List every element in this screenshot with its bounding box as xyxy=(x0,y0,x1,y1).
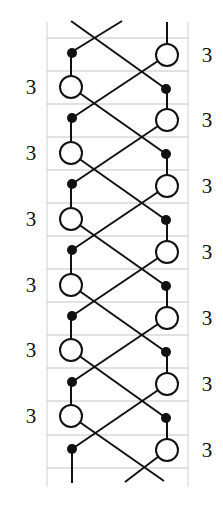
braid-diagram: 3333333333333 xyxy=(0,0,223,508)
right-multiplicity-label: 3 xyxy=(202,240,213,264)
open-circle-node xyxy=(156,44,178,66)
filled-dot-node xyxy=(67,179,77,189)
right-multiplicity-label: 3 xyxy=(202,174,213,198)
filled-dot-node xyxy=(67,113,77,123)
strand xyxy=(71,350,166,418)
right-multiplicity-label: 3 xyxy=(202,108,213,132)
strand xyxy=(72,384,167,449)
open-circle-node xyxy=(60,405,82,427)
strand xyxy=(71,219,166,286)
open-circle-node xyxy=(156,175,178,197)
filled-dot-node xyxy=(67,48,77,58)
open-circle-node xyxy=(60,76,82,98)
right-multiplicity-label: 3 xyxy=(202,43,213,67)
left-multiplicity-label: 3 xyxy=(26,75,37,99)
left-multiplicity-label: 3 xyxy=(26,141,37,165)
filled-dot-node xyxy=(67,245,77,255)
right-multiplicity-label: 3 xyxy=(202,438,213,462)
open-circle-node xyxy=(156,373,178,395)
open-circle-node xyxy=(60,274,82,296)
open-circle-node xyxy=(60,142,82,164)
open-circle-node xyxy=(156,307,178,329)
open-circle-node xyxy=(156,241,178,263)
open-circle-node xyxy=(156,109,178,131)
left-multiplicity-label: 3 xyxy=(26,404,37,428)
filled-dot-node xyxy=(67,311,77,321)
strand xyxy=(72,252,167,316)
filled-dot-node xyxy=(161,149,171,159)
filled-dot-node xyxy=(161,281,171,291)
left-multiplicity-label: 3 xyxy=(26,207,37,231)
open-circle-node xyxy=(156,439,178,461)
strand xyxy=(72,318,167,382)
left-multiplicity-label: 3 xyxy=(26,273,37,297)
strands xyxy=(70,21,167,483)
strand xyxy=(71,87,166,154)
open-circle-node xyxy=(60,208,82,230)
strand xyxy=(72,186,167,250)
strand xyxy=(71,21,166,89)
filled-dot-node xyxy=(161,84,171,94)
right-multiplicity-label: 3 xyxy=(202,372,213,396)
strand xyxy=(72,120,167,184)
right-multiplicity-label: 3 xyxy=(202,306,213,330)
strand xyxy=(72,55,167,118)
filled-dot-node xyxy=(161,215,171,225)
filled-dot-node xyxy=(67,377,77,387)
strand xyxy=(71,416,164,481)
filled-dot-node xyxy=(67,444,77,454)
strand xyxy=(71,285,166,352)
strand xyxy=(71,153,166,220)
left-multiplicity-label: 3 xyxy=(26,338,37,362)
open-circle-node xyxy=(60,339,82,361)
filled-dot-node xyxy=(161,347,171,357)
filled-dot-node xyxy=(161,413,171,423)
